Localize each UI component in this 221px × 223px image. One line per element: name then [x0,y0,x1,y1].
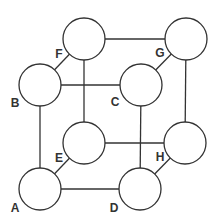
edges-group [40,39,186,189]
diagram-canvas [0,0,221,223]
node-label-e: E [55,152,63,164]
node-label-h: H [156,151,165,163]
node-d [119,168,161,210]
node-a [19,168,61,210]
node-label-d: D [110,202,119,214]
node-label-c: C [111,96,120,108]
node-b [19,64,61,106]
node-label-g: G [155,47,164,59]
node-label-f: F [55,48,62,60]
node-e [63,122,105,164]
node-g [165,18,207,60]
node-label-a: A [11,202,20,214]
node-f [63,18,105,60]
nodes-group [19,18,207,210]
node-label-b: B [11,97,20,109]
node-c [120,64,162,106]
node-h [164,122,206,164]
